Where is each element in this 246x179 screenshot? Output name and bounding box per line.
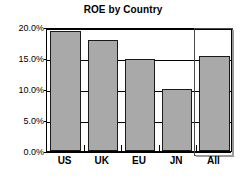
x-tick-mark <box>159 145 160 151</box>
bar-group <box>196 29 233 151</box>
y-tick-label: 20.0% <box>2 23 44 33</box>
bar[interactable] <box>199 56 229 151</box>
x-tick-mark <box>196 145 197 151</box>
x-tick-label: EU <box>120 155 157 166</box>
x-axis: USUKEUJNAll <box>46 155 232 175</box>
bar-group <box>47 29 84 151</box>
x-tick-label: US <box>46 155 83 166</box>
x-tick-mark <box>121 145 122 151</box>
bar[interactable] <box>125 59 155 151</box>
bar-group <box>159 29 196 151</box>
y-axis: 20.0% 15.0% 10.0% 5.0% 0.0% <box>0 0 44 179</box>
bar[interactable] <box>162 89 192 151</box>
y-tick-label: 0.0% <box>2 147 44 157</box>
plot-area <box>46 28 232 152</box>
bar-group <box>121 29 158 151</box>
x-tick-mark <box>84 145 85 151</box>
y-tick-label: 5.0% <box>2 116 44 126</box>
bar[interactable] <box>88 40 118 151</box>
chart-container: ROE by Country 20.0% 15.0% 10.0% 5.0% 0.… <box>0 0 246 179</box>
y-tick-label: 10.0% <box>2 85 44 95</box>
bar-group <box>84 29 121 151</box>
bar[interactable] <box>50 31 80 151</box>
x-tick-label: JN <box>158 155 195 166</box>
y-tick-label: 15.0% <box>2 54 44 64</box>
bars-layer <box>47 29 231 151</box>
x-tick-label: UK <box>83 155 120 166</box>
gridline <box>47 152 231 153</box>
x-tick-label: All <box>195 155 232 166</box>
